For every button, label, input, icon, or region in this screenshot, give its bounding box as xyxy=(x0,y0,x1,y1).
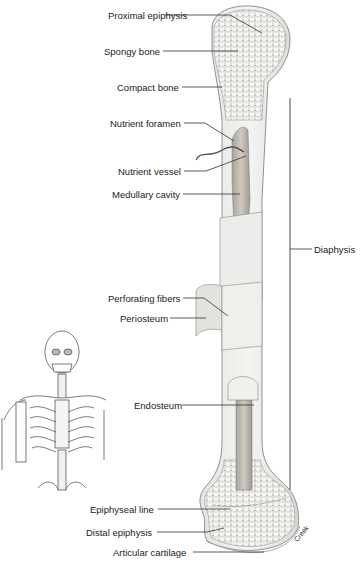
bone xyxy=(196,6,300,553)
skeleton-inset xyxy=(2,331,106,490)
label-perforating-fibers: Perforating fibers xyxy=(108,293,180,304)
label-periosteum: Periosteum xyxy=(120,313,168,324)
label-medullary-cavity: Medullary cavity xyxy=(112,189,180,200)
label-proximal-epiphysis: Proximal epiphysis xyxy=(108,10,187,21)
label-distal-epiphysis: Distal epiphysis xyxy=(86,527,152,538)
label-articular-cartilage: Articular cartilage xyxy=(113,547,186,558)
label-endosteum: Endosteum xyxy=(134,400,182,411)
label-epiphyseal-line: Epiphyseal line xyxy=(90,504,154,515)
label-nutrient-vessel: Nutrient vessel xyxy=(118,166,181,177)
label-compact-bone: Compact bone xyxy=(117,82,179,93)
label-nutrient-foramen: Nutrient foramen xyxy=(110,118,181,129)
label-diaphysis: Diaphysis xyxy=(314,244,355,255)
label-spongy-bone: Spongy bone xyxy=(104,46,160,57)
bone-diagram xyxy=(0,0,363,566)
